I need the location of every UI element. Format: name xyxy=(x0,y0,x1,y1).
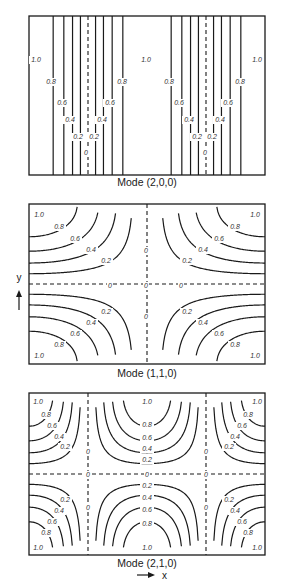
contour-level-label: 0.2 xyxy=(224,496,234,503)
panel-caption: Mode (1,1,0) xyxy=(117,367,177,379)
contour-level-label: 0.4 xyxy=(86,246,96,253)
contour-lines xyxy=(53,16,241,175)
contour-level-label: 0.6 xyxy=(57,99,67,106)
contour-level-label: 0.8 xyxy=(142,421,152,428)
contour-level-label: 0.6 xyxy=(70,330,80,337)
contour-level-label: 0.2 xyxy=(192,133,202,140)
contour-level-label: 0.4 xyxy=(230,507,240,514)
contour-level-label: 0.4 xyxy=(230,433,240,440)
contour-level-label: 0 xyxy=(204,504,208,511)
contour-level-label: 0.4 xyxy=(97,116,107,123)
contour-level-label: 1.0 xyxy=(250,211,260,218)
contour-level-label: 0.2 xyxy=(101,308,111,315)
y-axis-indicator: y xyxy=(16,272,22,310)
contour-level-label: 1.0 xyxy=(33,398,43,405)
contour-level-label: 0.8 xyxy=(117,78,127,85)
contour-level-label: 0.8 xyxy=(41,411,51,418)
contour-level-label: 1.0 xyxy=(142,398,152,405)
panel-caption: Mode (2,1,0) xyxy=(117,557,177,569)
contour-level-label: 0.6 xyxy=(70,235,80,242)
contour-level-label: 1.0 xyxy=(250,352,260,359)
contour-level-label: 0.6 xyxy=(223,99,233,106)
contour-level-label: 0 xyxy=(203,149,207,156)
contour-level-label: 0.4 xyxy=(54,433,64,440)
contour-line xyxy=(163,294,265,350)
contour-level-label: 0 xyxy=(144,247,148,254)
contour-level-label: 0.2 xyxy=(60,443,70,450)
x-axis-indicator: x xyxy=(137,570,167,581)
contour-level-label: 0.4 xyxy=(142,445,152,452)
contour-level-label: 0.8 xyxy=(54,341,64,348)
contour-level-label: 0 xyxy=(204,448,208,455)
contour-level-label: 0.4 xyxy=(86,319,96,326)
contour-level-labels: 1.01.01.00.80.60.40.20.80.60.40.20.80.60… xyxy=(31,398,264,552)
contour-level-label: 0 xyxy=(144,282,148,289)
contour-level-label: 0.8 xyxy=(41,529,51,536)
x-axis-label: x xyxy=(162,570,167,581)
panel-mode-110: 1.01.01.01.00.80.60.40.20.80.60.40.20.20… xyxy=(29,204,265,379)
contour-level-label: 0.6 xyxy=(47,422,57,429)
contour-level-label: 0.8 xyxy=(243,411,253,418)
contour-level-label: 0.6 xyxy=(214,235,224,242)
contour-level-label: 0.6 xyxy=(105,99,115,106)
contour-level-label: 0.8 xyxy=(54,223,64,230)
contour-line xyxy=(163,218,265,274)
contour-level-label: 0.2 xyxy=(60,496,70,503)
contour-level-label: 0.6 xyxy=(174,99,184,106)
y-arrow-icon xyxy=(16,290,22,297)
contour-level-label: 0.4 xyxy=(198,246,208,253)
contour-level-label: 0.2 xyxy=(89,133,99,140)
contour-level-label: 0.6 xyxy=(47,518,57,525)
y-axis-label: y xyxy=(17,272,22,283)
mode-shape-figure: 1.01.01.00.80.80.80.80.60.60.60.60.40.40… xyxy=(0,0,281,588)
contour-level-label: 0 xyxy=(86,471,90,478)
contour-level-label: 0.6 xyxy=(142,506,152,513)
contour-level-label: 0.6 xyxy=(237,422,247,429)
contour-level-label: 0 xyxy=(144,313,148,320)
contour-level-label: 0.8 xyxy=(230,223,240,230)
contour-level-label: 0.6 xyxy=(142,434,152,441)
contour-level-label: 0 xyxy=(179,282,183,289)
panel-mode-210: 1.01.01.00.80.60.40.20.80.60.40.20.80.60… xyxy=(29,393,265,569)
x-arrow-icon xyxy=(148,572,155,578)
contour-level-label: 0.2 xyxy=(207,133,217,140)
contour-level-label: 0.4 xyxy=(198,319,208,326)
contour-level-label: 0.8 xyxy=(235,78,245,85)
contour-level-label: 1.0 xyxy=(252,398,262,405)
contour-level-label: 0.2 xyxy=(101,257,111,264)
contour-level-label: 0.4 xyxy=(184,116,194,123)
contour-level-label: 0.6 xyxy=(214,330,224,337)
contour-level-label: 1.0 xyxy=(33,544,43,551)
contour-level-label: 1.0 xyxy=(34,352,44,359)
contour-level-label: 0.2 xyxy=(182,308,192,315)
contour-level-label: 1.0 xyxy=(142,544,152,551)
contour-level-label: 0.4 xyxy=(54,507,64,514)
contour-level-label: 0 xyxy=(84,149,88,156)
contour-level-label: 0.6 xyxy=(237,518,247,525)
contour-line xyxy=(29,294,131,350)
contour-level-label: 1.0 xyxy=(31,56,41,63)
contour-level-label: 1.0 xyxy=(141,56,151,63)
contour-level-label: 0.2 xyxy=(142,482,152,489)
contour-level-label: 0.4 xyxy=(142,494,152,501)
contour-level-label: 0.2 xyxy=(224,443,234,450)
contour-level-label: 1.0 xyxy=(252,56,262,63)
contour-level-label: 0.8 xyxy=(164,78,174,85)
contour-level-label: 0.4 xyxy=(65,116,75,123)
contour-level-label: 0.4 xyxy=(215,116,225,123)
panel-caption: Mode (2,0,0) xyxy=(117,176,177,188)
contour-level-label: 0 xyxy=(86,448,90,455)
contour-level-label: 0.2 xyxy=(182,257,192,264)
contour-level-label: 0.2 xyxy=(73,133,83,140)
contour-level-label: 0.8 xyxy=(142,520,152,527)
contour-level-label: 0.8 xyxy=(243,529,253,536)
contour-line xyxy=(29,218,131,274)
contour-level-label: 0.2 xyxy=(142,456,152,463)
contour-level-label: 0 xyxy=(108,282,112,289)
contour-level-label: 0 xyxy=(86,504,90,511)
contour-level-label: 0.8 xyxy=(230,341,240,348)
contour-level-label: 0.8 xyxy=(46,78,56,85)
contour-level-label: 0 xyxy=(204,471,208,478)
contour-level-label: 0 xyxy=(145,471,149,478)
panel-mode-200: 1.01.01.00.80.80.80.80.60.60.60.60.40.40… xyxy=(29,16,265,188)
